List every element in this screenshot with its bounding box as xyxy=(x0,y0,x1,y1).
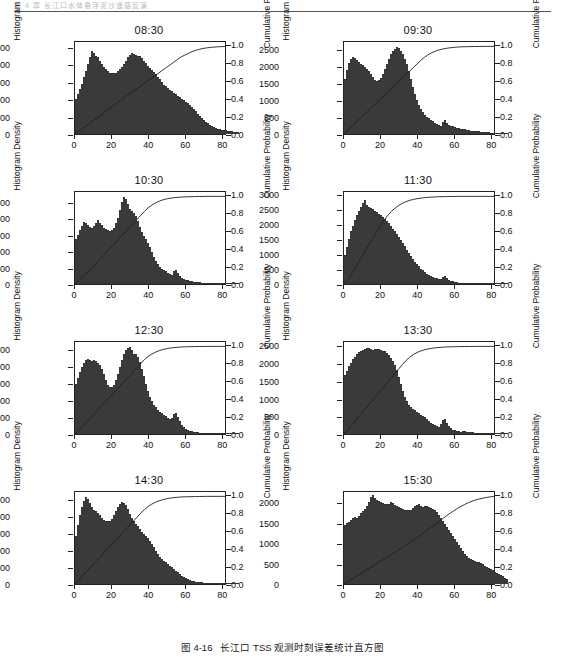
y-tick-label-left: 2500 xyxy=(0,496,10,505)
x-tick-mark xyxy=(185,435,186,439)
cumulative-probability-curve xyxy=(75,492,225,584)
x-tick-mark xyxy=(185,285,186,289)
y-tick-mark-right xyxy=(495,585,500,586)
subplot-1130: 11:30Histogram DensityCumulative Probabi… xyxy=(283,174,553,324)
y-tick-label-left: 2000 xyxy=(0,215,10,224)
y-axis-label-left: Histogram Density xyxy=(281,109,293,203)
y-tick-mark-right xyxy=(495,495,500,496)
x-tick-label: 80 xyxy=(210,440,234,450)
y-tick-label-left: 1500 xyxy=(219,80,279,89)
y-axis-label-left: Histogram Density xyxy=(12,409,24,503)
plot-area xyxy=(74,191,226,285)
y-tick-mark-left xyxy=(337,435,342,436)
x-tick-label: 20 xyxy=(99,290,123,300)
x-tick-label: 80 xyxy=(479,290,503,300)
y-tick-mark-right xyxy=(495,267,500,268)
y-axis-label-right: Cumulative Probability xyxy=(262,409,274,503)
x-tick-label: 0 xyxy=(62,290,86,300)
y-tick-label-right: 0.8 xyxy=(500,509,530,518)
cdf-polyline xyxy=(344,196,494,284)
y-tick-mark-left xyxy=(337,101,342,102)
y-tick-label-left: 2500 xyxy=(0,346,10,355)
x-tick-mark xyxy=(111,285,112,289)
subplot-title: 08:30 xyxy=(14,24,284,36)
y-tick-mark-left xyxy=(337,285,342,286)
y-tick-mark-left xyxy=(337,84,342,85)
plot-area xyxy=(74,491,226,585)
y-tick-mark-right xyxy=(495,435,500,436)
y-axis-label-left: Histogram Density xyxy=(281,259,293,353)
caption-text: 长江口 TSS 观测时刻误差统计直方图 xyxy=(220,642,384,653)
x-tick-mark xyxy=(111,585,112,589)
y-tick-mark-left xyxy=(337,400,342,401)
y-tick-mark-left xyxy=(337,118,342,119)
y-tick-label-left: 2000 xyxy=(0,363,10,372)
y-tick-mark-left xyxy=(68,367,73,368)
y-tick-mark-left xyxy=(68,269,73,270)
x-tick-label: 0 xyxy=(331,590,355,600)
y-tick-label-left: 1500 xyxy=(219,236,279,245)
x-tick-mark xyxy=(491,435,492,439)
y-tick-mark-right xyxy=(495,45,500,46)
subplot-1330: 13:30Histogram DensityCumulative Probabi… xyxy=(283,324,553,474)
y-tick-mark-right xyxy=(495,81,500,82)
subplot-title: 09:30 xyxy=(283,24,553,36)
cdf-polyline xyxy=(344,496,494,584)
y-axis-label-left: Histogram Density xyxy=(12,0,24,53)
x-tick-label: 40 xyxy=(136,140,160,150)
y-tick-mark-left xyxy=(337,417,342,418)
plot-area xyxy=(343,191,495,285)
x-tick-mark xyxy=(417,585,418,589)
y-tick-mark-left xyxy=(337,255,342,256)
y-tick-mark-right xyxy=(495,417,500,418)
y-tick-label-right: 0.6 xyxy=(500,227,530,236)
x-tick-mark xyxy=(417,285,418,289)
x-tick-mark xyxy=(491,585,492,589)
y-tick-label-right: 0.8 xyxy=(231,509,261,518)
y-tick-label-right: 0.2 xyxy=(500,263,530,272)
x-tick-mark xyxy=(111,435,112,439)
y-tick-mark-left xyxy=(68,203,73,204)
x-tick-label: 80 xyxy=(210,290,234,300)
x-tick-mark xyxy=(148,435,149,439)
y-tick-mark-left xyxy=(68,83,73,84)
x-tick-mark xyxy=(148,135,149,139)
cumulative-probability-curve xyxy=(344,342,494,434)
subplot-1530: 15:30Histogram DensityCumulative Probabi… xyxy=(283,474,553,624)
y-tick-mark-left xyxy=(337,50,342,51)
x-tick-label: 0 xyxy=(62,590,86,600)
y-tick-mark-right xyxy=(495,399,500,400)
y-tick-mark-left xyxy=(68,100,73,101)
x-tick-mark xyxy=(148,585,149,589)
y-tick-mark-left xyxy=(337,240,342,241)
figure-caption: 图 4-16长江口 TSS 观测时刻误差统计直方图 xyxy=(0,640,565,654)
plot-area xyxy=(74,341,226,435)
caption-number: 图 4-16 xyxy=(181,642,213,653)
x-tick-mark xyxy=(111,135,112,139)
subplot-title: 10:30 xyxy=(14,174,284,186)
y-tick-mark-right xyxy=(495,135,500,136)
y-axis-label-left: Histogram Density xyxy=(12,259,24,353)
x-tick-label: 0 xyxy=(62,140,86,150)
y-axis-label-right: Cumulative Probability xyxy=(531,259,543,353)
y-tick-label-left: 2000 xyxy=(0,61,10,70)
cdf-polyline xyxy=(344,346,494,434)
y-tick-label-right: 0.4 xyxy=(500,545,530,554)
y-tick-label-right: 0.4 xyxy=(500,395,530,404)
y-tick-mark-left xyxy=(337,503,342,504)
y-axis-label-right: Cumulative Probability xyxy=(531,409,543,503)
y-tick-label-left: 1500 xyxy=(0,380,10,389)
x-tick-mark xyxy=(343,435,344,439)
y-tick-mark-left xyxy=(337,544,342,545)
x-tick-mark xyxy=(380,435,381,439)
x-tick-label: 40 xyxy=(136,440,160,450)
x-tick-label: 60 xyxy=(173,290,197,300)
y-tick-label-left: 1000 xyxy=(219,396,279,405)
x-tick-label: 40 xyxy=(405,290,429,300)
y-tick-label-left: 1000 xyxy=(219,97,279,106)
y-tick-mark-left xyxy=(68,236,73,237)
y-tick-label-right: 0.2 xyxy=(500,413,530,422)
y-tick-label-left: 0 xyxy=(0,581,10,590)
cdf-polyline xyxy=(75,46,225,134)
y-tick-mark-left xyxy=(337,346,342,347)
